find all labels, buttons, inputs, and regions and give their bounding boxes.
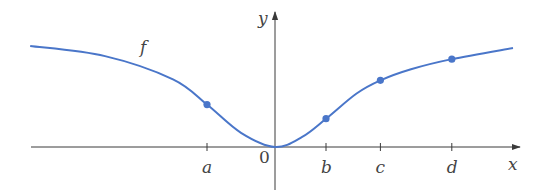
point-d bbox=[448, 56, 455, 63]
tick-label-d: d bbox=[447, 157, 458, 177]
point-a bbox=[203, 101, 210, 108]
tick-label-c: c bbox=[375, 157, 385, 177]
x-axis-label: x bbox=[508, 154, 518, 174]
point-c bbox=[377, 77, 384, 84]
origin-label: 0 bbox=[259, 147, 270, 167]
y-axis-label: y bbox=[257, 8, 268, 28]
tick-label-a: a bbox=[202, 157, 212, 177]
tick-label-b: b bbox=[321, 157, 332, 177]
function-graph: f y x a0bcd bbox=[0, 0, 550, 194]
point-b bbox=[322, 115, 329, 122]
function-label-f: f bbox=[138, 37, 149, 57]
curve-f bbox=[30, 46, 513, 147]
